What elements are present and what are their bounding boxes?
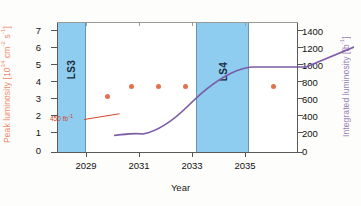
x-tickmark-2035 — [245, 152, 246, 157]
y-tick-left-4: 4 — [27, 77, 41, 87]
data-point-peak-3 — [156, 84, 161, 89]
x-tickmark-2029 — [86, 152, 87, 157]
y-axis-left-title: Peak luminosity [1034 cm-2 s-1] — [2, 10, 12, 160]
data-point-peak-1 — [105, 94, 110, 99]
y-tick-left-7: 7 — [27, 26, 41, 36]
plot-area: LS3 LS4 — [57, 22, 297, 152]
shaded-region-ls3: LS3 — [57, 22, 86, 152]
axis-line-right — [297, 22, 298, 153]
annotation-450fb: 450 fb-1 — [50, 115, 73, 122]
axis-line-bottom — [57, 152, 298, 153]
x-tickmark-2031 — [139, 152, 140, 157]
y-tick-left-2: 2 — [27, 111, 41, 121]
y-tick-left-6: 6 — [27, 43, 41, 53]
x-tick-2031: 2031 — [116, 160, 162, 171]
y-tick-right-1400: 1400 — [302, 27, 330, 37]
x-tickmark-2033 — [192, 152, 193, 157]
x-tickmark-top-2035 — [245, 22, 246, 26]
y-tick-left-1: 1 — [27, 128, 41, 138]
y-tick-left-0: 0 — [27, 146, 41, 156]
data-point-peak-4 — [183, 84, 188, 89]
x-tickmark-top-2031 — [139, 22, 140, 26]
chart-canvas: Peak luminosity [1034 cm-2 s-1] Integrat… — [0, 0, 361, 206]
axis-line-left — [57, 22, 58, 153]
y-tick-left-5: 5 — [27, 60, 41, 70]
x-axis-title: Year — [0, 182, 361, 193]
x-tick-2029: 2029 — [63, 160, 109, 171]
data-point-peak-5 — [271, 84, 276, 89]
integrated-luminosity-line — [114, 44, 354, 174]
x-tick-2033: 2033 — [169, 160, 215, 171]
data-point-peak-2 — [129, 84, 134, 89]
y-tick-left-3: 3 — [27, 94, 41, 104]
axis-line-top — [57, 22, 298, 23]
x-tickmark-top-2033 — [192, 22, 193, 26]
x-tickmark-top-2029 — [86, 22, 87, 26]
shaded-region-ls3-label: LS3 — [66, 60, 77, 79]
x-tick-2035: 2035 — [222, 160, 268, 171]
